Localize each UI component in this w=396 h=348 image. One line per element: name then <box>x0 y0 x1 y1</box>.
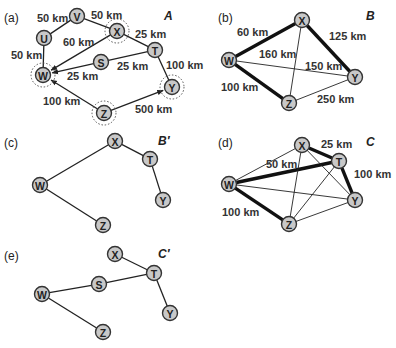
edge-distance-label: 50 km <box>37 12 68 24</box>
node-b-W: W <box>222 53 237 68</box>
node-c-T: T <box>143 152 158 167</box>
edge-d-W-Y <box>236 185 347 199</box>
node-label: S <box>97 57 104 69</box>
node-label: X <box>111 249 118 261</box>
edge-c-T-Y <box>152 166 160 193</box>
node-label: Z <box>286 98 293 110</box>
edge-c-X-T <box>122 144 144 155</box>
node-d-T: T <box>332 154 347 169</box>
node-label: W <box>224 55 234 67</box>
edge-distance-label: 160 km <box>259 48 297 60</box>
node-label: Z <box>100 327 107 339</box>
node-c-Z: Z <box>96 218 111 233</box>
panel-label-e: (e) <box>4 249 19 263</box>
edge-distance-label: 25 km <box>67 70 98 82</box>
node-d-Y: Y <box>348 193 363 208</box>
edge-distance-label: 100 km <box>222 206 260 218</box>
edge-d-T-Z <box>294 167 335 218</box>
node-label: X <box>111 136 118 148</box>
node-c-W: W <box>33 178 48 193</box>
edge-distance-label: 25 km <box>321 138 352 150</box>
panel-label-b: (b) <box>218 11 233 25</box>
panel-label-d: (d) <box>218 136 233 150</box>
node-label: W <box>224 179 234 191</box>
node-label: Y <box>351 195 358 207</box>
panel-title-c: B′ <box>158 134 171 148</box>
node-a-T: T <box>148 43 163 58</box>
node-a-S: S <box>94 55 109 70</box>
edge-d-T-Y <box>342 168 352 193</box>
node-e-Z: Z <box>96 325 111 340</box>
node-a-X: X <box>105 19 129 43</box>
node-a-U: U <box>37 31 52 46</box>
edge-distance-label: 100 km <box>43 95 81 107</box>
node-label: Y <box>159 195 166 207</box>
edge-distance-label: 125 km <box>329 30 367 42</box>
node-a-Z: Z <box>92 101 116 125</box>
edge-e-T-S <box>106 274 146 282</box>
node-label: W <box>35 180 45 192</box>
edge-distance-label: 25 km <box>117 60 148 72</box>
node-label: X <box>298 15 305 27</box>
network-figure: (a) A (b) B (c) B′ (d) C (e) C′ VUXTSWYZ… <box>0 0 396 348</box>
node-d-Z: Z <box>282 217 297 232</box>
edge-distance-label: 60 km <box>63 36 94 48</box>
node-label: Z <box>286 219 293 231</box>
edge-e-S-W <box>49 285 91 292</box>
node-label: T <box>147 154 154 166</box>
edge-e-T-Y <box>157 280 167 306</box>
panel-title-d: C <box>366 135 375 149</box>
edge-distance-label: 100 km <box>221 81 259 93</box>
node-b-Y: Y <box>348 70 363 85</box>
node-label: T <box>151 268 158 280</box>
edge-distance-label: 500 km <box>135 103 173 115</box>
edge-distance-label: 250 km <box>317 93 355 105</box>
node-b-X: X <box>295 13 310 28</box>
node-label: X <box>113 26 120 38</box>
panel-label-c: (c) <box>4 136 18 150</box>
node-label: V <box>73 11 80 23</box>
node-label: T <box>152 45 159 57</box>
node-d-X: X <box>295 138 310 153</box>
node-a-Y: Y <box>160 75 184 99</box>
edge-e-X-T <box>122 257 148 269</box>
node-b-Z: Z <box>282 96 297 111</box>
node-label: X <box>298 140 305 152</box>
node-label: T <box>336 156 343 168</box>
edge-distance-label: 150 km <box>305 60 343 72</box>
node-e-X: X <box>108 247 123 262</box>
node-label: Z <box>100 220 107 232</box>
node-label: W <box>38 70 48 82</box>
edge-distance-label: 50 km <box>11 49 42 61</box>
node-e-S: S <box>92 277 107 292</box>
node-label: W <box>37 289 47 301</box>
node-label: Y <box>351 72 358 84</box>
edge-distance-label: 50 km <box>91 9 122 21</box>
node-e-T: T <box>147 266 162 281</box>
edge-b-X-Z <box>290 27 301 95</box>
panel-title-e: C′ <box>158 247 171 261</box>
edge-a-U-W <box>43 45 44 67</box>
edge-distance-label: 25 km <box>135 28 166 40</box>
node-label: S <box>95 279 102 291</box>
node-c-Y: Y <box>156 193 171 208</box>
edge-distance-label: 60 km <box>237 26 268 38</box>
edge-distance-label: 100 km <box>354 168 392 180</box>
panel-title-b: B <box>366 9 375 23</box>
node-c-X: X <box>108 134 123 149</box>
node-label: Y <box>168 82 175 94</box>
node-d-W: W <box>222 177 237 192</box>
panel-label-a: (a) <box>4 11 19 25</box>
edge-c-W-Z <box>46 189 96 221</box>
node-a-V: V <box>70 9 85 24</box>
node-e-Y: Y <box>163 306 178 321</box>
edge-c-W-X <box>46 145 108 181</box>
node-label: Z <box>101 108 108 120</box>
node-e-W: W <box>35 287 50 302</box>
edge-distance-label: 100 km <box>166 59 204 71</box>
edge-labels-layer: 50 km50 km50 km60 km25 km25 km25 km100 k… <box>11 9 392 218</box>
panel-title-a: A <box>163 9 173 23</box>
edge-e-W-Z <box>48 298 96 328</box>
node-label: Y <box>166 308 173 320</box>
edge-distance-label: 50 km <box>266 158 297 170</box>
